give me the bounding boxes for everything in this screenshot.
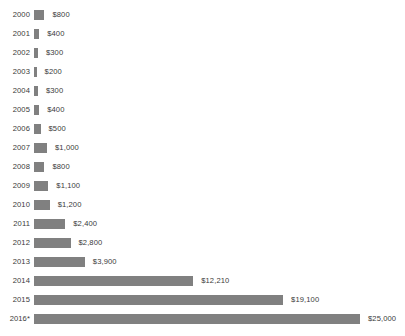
bar-track: $200 — [34, 66, 405, 78]
value-label: $1,000 — [55, 142, 79, 154]
bar-track: $400 — [34, 28, 405, 40]
bar-track: $2,800 — [34, 237, 405, 249]
category-label: 2007 — [0, 142, 30, 154]
value-label: $400 — [47, 104, 64, 116]
category-label: 2016* — [0, 313, 30, 325]
bar — [34, 105, 39, 115]
bar-row: 2011$2,400 — [0, 218, 405, 237]
value-label: $300 — [46, 47, 63, 59]
bar — [34, 295, 283, 305]
value-label: $19,100 — [291, 294, 319, 306]
bar-row: 2004$300 — [0, 85, 405, 104]
category-label: 2001 — [0, 28, 30, 40]
bar-row: 2015$19,100 — [0, 294, 405, 313]
category-label: 2006 — [0, 123, 30, 135]
value-label: $800 — [52, 161, 69, 173]
bar-row: 2007$1,000 — [0, 142, 405, 161]
value-label: $3,900 — [93, 256, 117, 268]
value-label: $1,200 — [58, 199, 82, 211]
category-label: 2004 — [0, 85, 30, 97]
bar — [34, 124, 41, 134]
category-label: 2002 — [0, 47, 30, 59]
bar-track: $800 — [34, 9, 405, 21]
bar — [34, 257, 85, 267]
bar-track: $2,400 — [34, 218, 405, 230]
bar-row: 2008$800 — [0, 161, 405, 180]
bar-row: 2000$800 — [0, 9, 405, 28]
bar-row: 2010$1,200 — [0, 199, 405, 218]
value-label: $800 — [52, 9, 69, 21]
bar-track: $300 — [34, 47, 405, 59]
bar-row: 2003$200 — [0, 66, 405, 85]
bar-row: 2012$2,800 — [0, 237, 405, 256]
bar — [34, 67, 37, 77]
value-label: $500 — [49, 123, 66, 135]
category-label: 2013 — [0, 256, 30, 268]
bar — [34, 162, 44, 172]
bar-track: $300 — [34, 85, 405, 97]
bar-row: 2016*$25,000 — [0, 313, 405, 332]
bar-row: 2009$1,100 — [0, 180, 405, 199]
bar-track: $12,210 — [34, 275, 405, 287]
bar — [34, 181, 48, 191]
bar-track: $3,900 — [34, 256, 405, 268]
bar — [34, 143, 47, 153]
bar-chart: 2000$8002001$4002002$3002003$2002004$300… — [0, 0, 405, 336]
category-label: 2003 — [0, 66, 30, 78]
category-label: 2000 — [0, 9, 30, 21]
value-label: $400 — [47, 28, 64, 40]
bar-track: $500 — [34, 123, 405, 135]
bar-track: $800 — [34, 161, 405, 173]
value-label: $12,210 — [201, 275, 229, 287]
bar-row: 2001$400 — [0, 28, 405, 47]
bar-row: 2014$12,210 — [0, 275, 405, 294]
category-label: 2012 — [0, 237, 30, 249]
value-label: $2,800 — [79, 237, 103, 249]
bar — [34, 29, 39, 39]
bar-track: $1,100 — [34, 180, 405, 192]
category-label: 2011 — [0, 218, 30, 230]
bar-track: $19,100 — [34, 294, 405, 306]
bar-track: $1,000 — [34, 142, 405, 154]
bar — [34, 276, 193, 286]
value-label: $200 — [45, 66, 62, 78]
bar-track: $25,000 — [34, 313, 405, 325]
bar-row: 2005$400 — [0, 104, 405, 123]
category-label: 2005 — [0, 104, 30, 116]
bar — [34, 219, 65, 229]
value-label: $1,100 — [56, 180, 80, 192]
value-label: $2,400 — [73, 218, 97, 230]
category-label: 2008 — [0, 161, 30, 173]
bar-rows-container: 2000$8002001$4002002$3002003$2002004$300… — [0, 9, 405, 332]
clipped-title-remnant — [0, 0, 405, 1]
bar-row: 2013$3,900 — [0, 256, 405, 275]
category-label: 2010 — [0, 199, 30, 211]
value-label: $25,000 — [368, 313, 396, 325]
bar — [34, 86, 38, 96]
bar — [34, 314, 360, 324]
value-label: $300 — [46, 85, 63, 97]
category-label: 2015 — [0, 294, 30, 306]
category-label: 2014 — [0, 275, 30, 287]
bar — [34, 48, 38, 58]
bar-row: 2002$300 — [0, 47, 405, 66]
bar — [34, 238, 71, 248]
bar-track: $1,200 — [34, 199, 405, 211]
bar-track: $400 — [34, 104, 405, 116]
category-label: 2009 — [0, 180, 30, 192]
bar — [34, 200, 50, 210]
bar-row: 2006$500 — [0, 123, 405, 142]
bar — [34, 10, 44, 20]
